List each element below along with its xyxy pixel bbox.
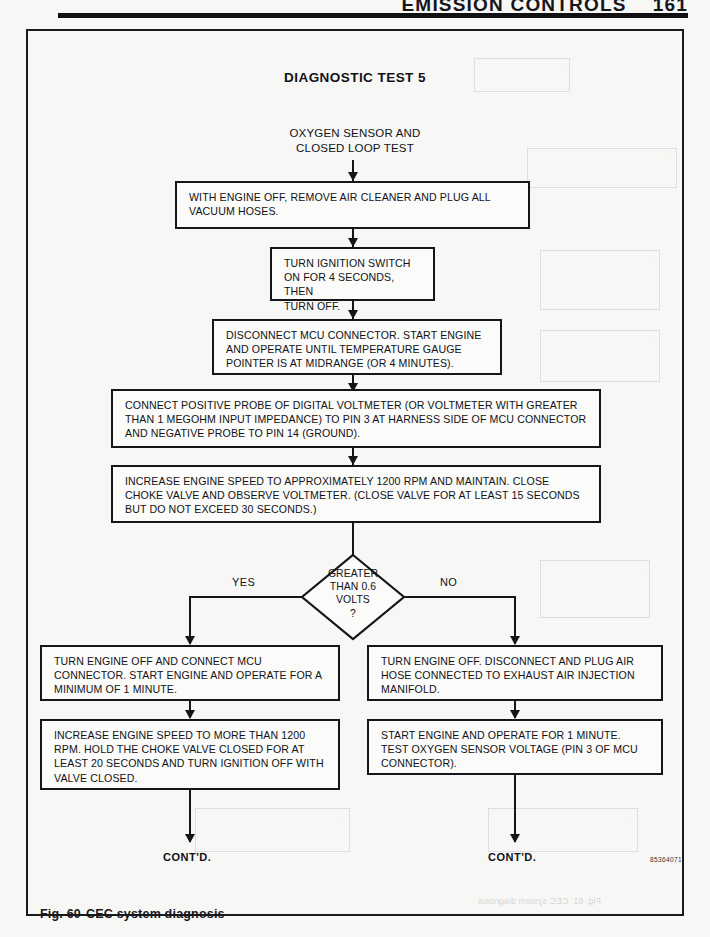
flow-start-label-line1: OXYGEN SENSOR AND bbox=[0, 126, 710, 141]
arrowhead-step5 bbox=[348, 456, 358, 465]
figure-caption: Fig. 60CEC system diagnosis bbox=[40, 907, 225, 921]
terminal-yes-contd: CONT'D. bbox=[163, 851, 211, 863]
arrowhead-yes-contd bbox=[185, 834, 195, 843]
flow-box-no-step2-text: START ENGINE AND OPERATE FOR 1 MINUTE. T… bbox=[381, 728, 651, 771]
connector-decision-no-horizontal bbox=[404, 596, 516, 598]
connector-decision-yes-horizontal bbox=[189, 596, 302, 598]
flow-box-step2: TURN IGNITION SWITCH ON FOR 4 SECONDS, T… bbox=[270, 247, 435, 301]
arrowhead-no-contd bbox=[510, 834, 520, 843]
flow-box-step3-text: DISCONNECT MCU CONNECTOR. START ENGINE A… bbox=[226, 328, 490, 371]
flow-start-label: OXYGEN SENSOR AND CLOSED LOOP TEST bbox=[0, 126, 710, 155]
flow-start-label-line2: CLOSED LOOP TEST bbox=[0, 141, 710, 156]
flow-box-step1: WITH ENGINE OFF, REMOVE AIR CLEANER AND … bbox=[175, 181, 530, 229]
flow-box-no-step1-text: TURN ENGINE OFF. DISCONNECT AND PLUG AIR… bbox=[381, 654, 651, 697]
connector-step5-to-decision bbox=[352, 523, 354, 555]
branch-label-no: NO bbox=[440, 576, 457, 588]
figure-caption-text: CEC system diagnosis bbox=[86, 907, 225, 921]
terminal-no-contd: CONT'D. bbox=[488, 851, 536, 863]
arrowhead-step2 bbox=[348, 238, 358, 247]
flow-box-yes-step2-text: INCREASE ENGINE SPEED TO MORE THAN 1200 … bbox=[54, 728, 328, 785]
diagram-title: DIAGNOSTIC TEST 5 bbox=[0, 70, 710, 85]
arrowhead-no-step2 bbox=[510, 710, 520, 719]
flow-box-step2-line1: TURN IGNITION SWITCH bbox=[284, 256, 423, 270]
flow-box-step5-text: INCREASE ENGINE SPEED TO APPROXIMATELY 1… bbox=[125, 474, 589, 517]
flow-box-step5: INCREASE ENGINE SPEED TO APPROXIMATELY 1… bbox=[111, 465, 601, 523]
flow-box-step2-line2: ON FOR 4 SECONDS, THEN bbox=[284, 270, 423, 298]
arrowhead-no-step1 bbox=[510, 636, 520, 645]
manual-page: EMISSION CONTROLS161 . . . . . . . Fig. … bbox=[0, 0, 710, 937]
flow-box-no-step1: TURN ENGINE OFF. DISCONNECT AND PLUG AIR… bbox=[367, 645, 663, 701]
flow-box-step3: DISCONNECT MCU CONNECTOR. START ENGINE A… bbox=[212, 319, 502, 375]
header-rule bbox=[58, 13, 688, 18]
flow-box-step4: CONNECT POSITIVE PROBE OF DIGITAL VOLTME… bbox=[111, 389, 601, 448]
arrowhead-step1 bbox=[348, 172, 358, 181]
flow-box-no-step2: START ENGINE AND OPERATE FOR 1 MINUTE. T… bbox=[367, 719, 663, 775]
arrowhead-yes-step1 bbox=[185, 636, 195, 645]
flow-box-yes-step1: TURN ENGINE OFF AND CONNECT MCU CONNECTO… bbox=[40, 645, 340, 701]
flow-box-yes-step1-text: TURN ENGINE OFF AND CONNECT MCU CONNECTO… bbox=[54, 654, 328, 697]
flow-box-step1-text: WITH ENGINE OFF, REMOVE AIR CLEANER AND … bbox=[189, 190, 518, 218]
flow-box-yes-step2: INCREASE ENGINE SPEED TO MORE THAN 1200 … bbox=[40, 719, 340, 790]
figure-caption-number: Fig. 60 bbox=[40, 907, 81, 921]
flow-box-step4-text: CONNECT POSITIVE PROBE OF DIGITAL VOLTME… bbox=[125, 398, 589, 441]
connector-no2-to-contd bbox=[514, 775, 516, 842]
artwork-code: 85364071 bbox=[650, 856, 682, 863]
branch-label-yes: YES bbox=[232, 576, 255, 588]
decision-diamond: GREATER THAN 0.6 VOLTS ? bbox=[300, 553, 406, 641]
arrowhead-yes-step2 bbox=[185, 710, 195, 719]
arrowhead-step3 bbox=[348, 310, 358, 319]
